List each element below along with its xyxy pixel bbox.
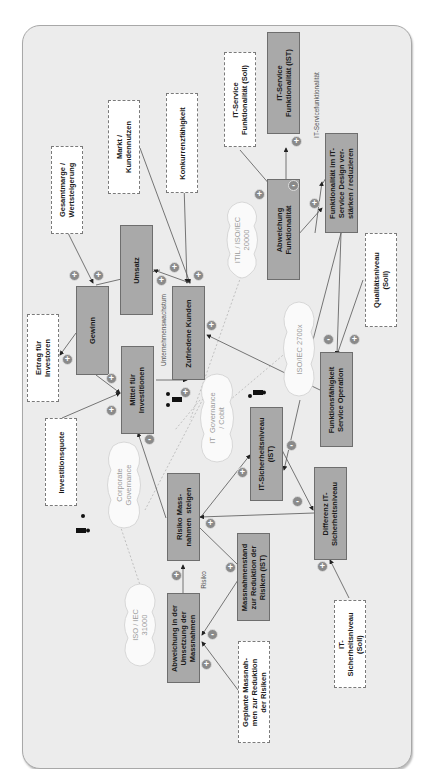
polarity-plus: + (156, 275, 167, 286)
polarity-minus: - (288, 180, 299, 191)
ext-ertrag[interactable]: Ertrag für Investoren (27, 314, 59, 402)
ext-it-service-soll[interactable]: IT-Service Funktionalität (Soll) (224, 52, 256, 147)
node-differenz-sicherheit[interactable]: Differenz IT- Sicherheitsniveau (314, 467, 347, 560)
person-icon (165, 390, 185, 410)
node-funktionsfaehigkeit[interactable]: Funktionsfähigkeit Service Operation (320, 352, 353, 447)
cloud-corpgov: Corporate Governance (105, 440, 143, 530)
ext-investitionsquote[interactable]: Investitionsquote (45, 418, 77, 506)
cloud-itil-label: ITIL / ISO/IEC 20000 (233, 217, 251, 263)
polarity-plus: + (62, 354, 73, 365)
polarity-minus: - (323, 334, 334, 345)
polarity-plus: + (206, 320, 217, 331)
polarity-minus: - (144, 434, 155, 445)
cloud-iso27-label: ISO/IEC 2700x (295, 324, 304, 374)
polarity-minus: - (292, 496, 303, 507)
polarity-minus: - (286, 440, 297, 451)
polarity-plus: + (69, 270, 80, 281)
loop-label-risiko: Risiko (200, 565, 210, 595)
polarity-plus: + (317, 561, 328, 572)
loop-label-servicefunktionalitaet: IT-Servicefunktionalität (313, 65, 323, 145)
polarity-plus: + (201, 659, 212, 670)
polarity-plus: + (106, 373, 117, 384)
polarity-plus: + (349, 334, 360, 345)
polarity-plus: + (309, 198, 320, 209)
polarity-plus: + (193, 270, 204, 281)
cloud-itgov-label: IT Governance / Cobit (208, 392, 226, 444)
polarity-plus: + (237, 467, 248, 478)
ext-gesamtmarge[interactable]: Gesamtmarge / Wertsteigerung (51, 146, 83, 234)
node-it-sicherheit-ist[interactable]: IT-Sicherheitsniveau (IST) (250, 407, 283, 501)
cloud-iso31-label: ISO / IEC 31000 (131, 609, 149, 641)
ext-qualitaet-soll[interactable]: Qualitätsniveau (Soll) (365, 233, 397, 327)
node-gewinn[interactable]: Gewinn (76, 286, 109, 375)
node-risiko-massnahmen[interactable]: Risiko Mass- nahmen steigen (167, 473, 200, 561)
polarity-plus: + (291, 136, 302, 147)
polarity-plus: + (169, 262, 180, 273)
cloud-iso27: ISO/IEC 2700x (281, 300, 317, 398)
node-massnahmenstand[interactable]: Massnahmenstand zur Reduktion der Risike… (237, 533, 270, 621)
ext-geplante-massnahmen[interactable]: Geplante Massnah- men zur Reduktion der … (238, 641, 270, 743)
node-abweichung-funktionalitaet[interactable]: Abweichung Funktionalität (267, 179, 300, 280)
polarity-plus: + (225, 562, 236, 573)
node-mittel-investitionen[interactable]: Mittel für Investitionen (121, 346, 154, 434)
node-zufriedene-kunden[interactable]: Zufriedene Kunden (172, 286, 205, 380)
node-funktionalitaet-design[interactable]: Funktionalität im IT- Service Design ver… (325, 133, 358, 233)
polarity-plus: + (171, 570, 182, 581)
person-icon (248, 388, 268, 400)
person-icon (74, 512, 94, 538)
polarity-plus: + (205, 518, 216, 529)
polarity-plus: + (106, 405, 117, 416)
ext-markt[interactable]: Markt / Kundennutzen (108, 100, 140, 194)
ext-konkurrenz[interactable]: Konkurrenzfähigkeit (166, 93, 198, 193)
ext-it-sicherheit-soll[interactable]: IT- Sicherheitsniveau (Soll) (334, 600, 366, 688)
cloud-itil: ITIL / ISO/IEC 20000 (224, 200, 260, 280)
polarity-minus: - (207, 629, 218, 640)
loop-label-unternehmenswachstum: Unternehmenswachstum (160, 290, 170, 370)
polarity-plus: + (93, 270, 104, 281)
cloud-iso31: ISO / IEC 31000 (122, 582, 158, 668)
cloud-corpgov-label: Corporate Governance (115, 465, 133, 506)
node-umsatz[interactable]: Umsatz (120, 225, 153, 315)
polarity-plus: + (254, 189, 265, 200)
node-it-service-ist[interactable]: IT-Service Funktionalität (IST) (267, 32, 300, 134)
node-abweichung-umsetzung[interactable]: Abweichung in der Umsetzung der Massnahm… (167, 593, 200, 683)
cloud-itgov: IT Governance / Cobit (198, 372, 236, 464)
